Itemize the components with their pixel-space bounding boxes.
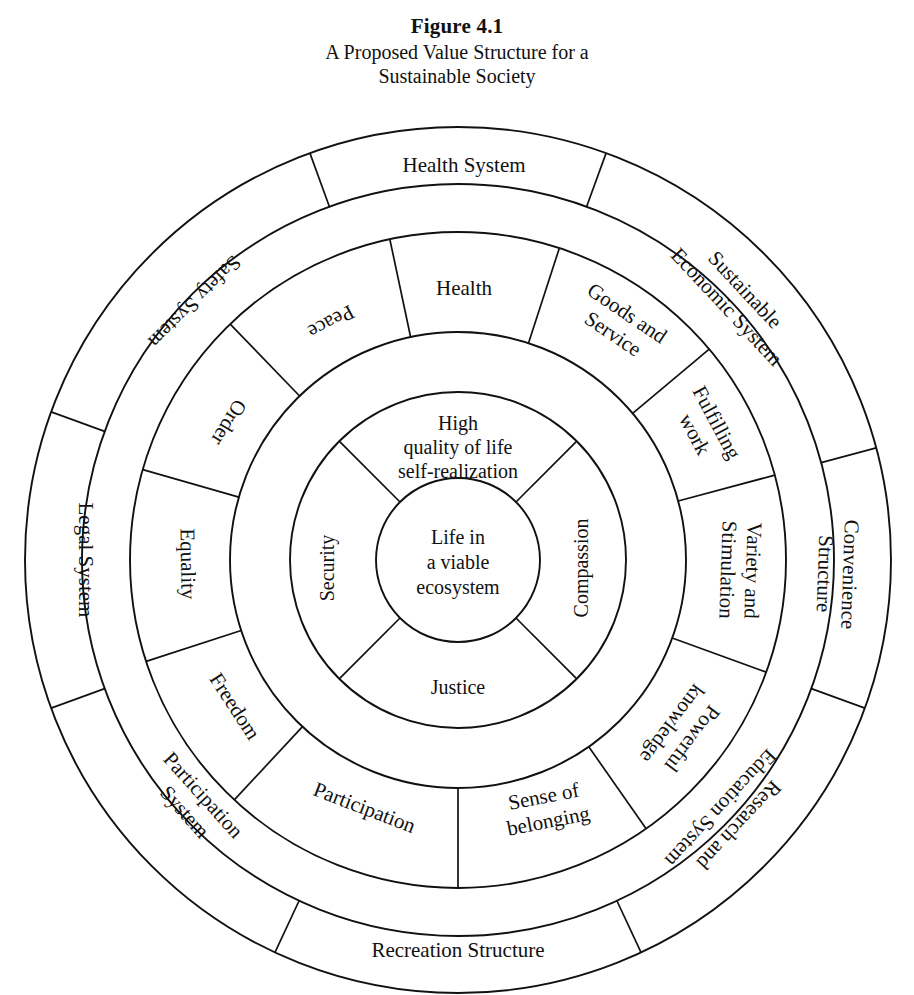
figure-container: Figure 4.1 A Proposed Value Structure fo…	[0, 0, 914, 995]
core-value-label-line-2: quality of life	[404, 436, 513, 459]
core-value-security: Security	[316, 535, 339, 602]
hub-label-line-1: Life in	[431, 526, 485, 548]
hub-label-line-2: a viable	[427, 551, 490, 573]
system-legal-system: Legal System	[74, 503, 98, 618]
value-structure-wheel: Life in a viable ecosystem High quality …	[0, 0, 914, 995]
core-value-compassion: Compassion	[570, 519, 593, 618]
value-variety-and-stimulation-line-1: Variety and	[739, 522, 766, 619]
hub-label: Life in a viable ecosystem	[416, 526, 500, 599]
system-convenience-structure-line-2: Structure	[812, 535, 839, 613]
value-variety-and-stimulation-line-2: Stimulation	[714, 520, 741, 619]
system-convenience-structure: Convenience Structure	[811, 519, 864, 630]
value-equality: Equality	[175, 528, 200, 600]
system-participation-system: Participation System	[140, 747, 249, 860]
value-fulfilling-work: Fulfilling work	[666, 382, 747, 476]
core-value-high-quality-of-life: High quality of life self-realization	[398, 412, 518, 482]
value-peace: Peace	[304, 300, 359, 344]
core-value-label-line-1: High	[438, 412, 478, 435]
value-freedom: Freedom	[204, 668, 265, 744]
value-health: Health	[436, 276, 492, 300]
value-goods-and-service: Goods and Service	[569, 278, 672, 369]
value-sense-of-belonging: Sense of belonging	[500, 776, 592, 840]
system-sustainable-economic-system: Sustainable Economic System	[666, 226, 806, 371]
core-value-justice: Justice	[431, 676, 486, 698]
system-health-system: Health System	[402, 153, 525, 177]
value-order: Order	[206, 395, 252, 449]
system-safety-system: Safety System	[144, 251, 246, 353]
system-recreation-structure: Recreation Structure	[371, 938, 544, 962]
core-value-label-line-3: self-realization	[398, 460, 518, 482]
value-variety-and-stimulation: Variety and Stimulation	[714, 520, 766, 620]
value-powerful-knowledge: Powerful knowledge	[635, 680, 730, 783]
system-convenience-structure-line-1: Convenience	[836, 519, 864, 629]
value-participation: Participation	[310, 777, 419, 838]
hub-label-line-3: ecosystem	[416, 576, 500, 599]
